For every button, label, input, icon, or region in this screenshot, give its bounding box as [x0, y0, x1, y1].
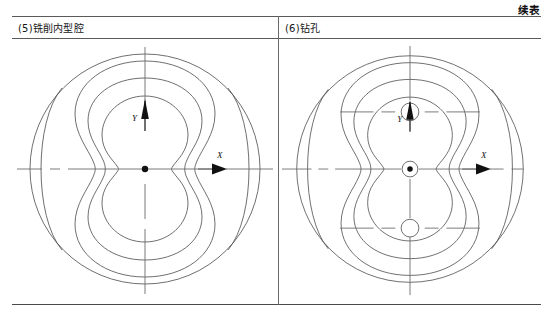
- figure-drilling-holes: X Y: [279, 39, 545, 304]
- x-axis-arrow: [198, 164, 227, 175]
- caption-step-6: (6)钻孔: [285, 20, 320, 35]
- caption-step-5: (5)铣削内型腔: [18, 20, 84, 35]
- drilling-holes-drawing: X Y: [279, 39, 541, 304]
- y-axis-label: Y: [132, 113, 138, 123]
- lower-hole: [401, 219, 419, 237]
- y-axis-arrow: [406, 100, 413, 132]
- y-axis-label: Y: [397, 114, 403, 124]
- continued-table-label: 续表: [518, 2, 539, 17]
- operation-table: (5)铣削内型腔 (6)钻孔: [12, 16, 541, 305]
- figure-milling-inner-cavity: X Y: [12, 39, 278, 304]
- table-top-rule: [12, 16, 541, 17]
- origin-dot: [142, 166, 148, 172]
- center-hole-group: [402, 161, 418, 177]
- page-root: 续表 (5)铣削内型腔 (6)钻孔: [0, 0, 553, 317]
- x-axis-label: X: [480, 150, 487, 160]
- x-axis-arrow: [462, 164, 491, 175]
- y-axis-arrow: [141, 99, 149, 131]
- origin-dot: [407, 166, 413, 172]
- x-axis-label: X: [216, 150, 223, 160]
- milling-inner-cavity-drawing: X Y: [12, 39, 278, 304]
- lower-hole-group: [340, 219, 480, 237]
- table-bottom-rule: [12, 304, 541, 305]
